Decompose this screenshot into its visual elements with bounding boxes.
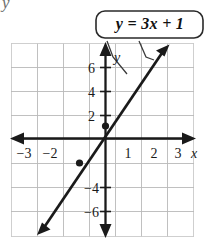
y-tick-label-6: 6 bbox=[88, 61, 95, 76]
x-tick-label--3: −3 bbox=[17, 146, 32, 161]
y-axis bbox=[100, 42, 112, 238]
graph-line-arrow-lower-left bbox=[37, 223, 51, 236]
y-tick-label-4: 4 bbox=[88, 85, 95, 100]
equation-callout-box bbox=[96, 11, 203, 38]
plotted-point-neg1-neg2 bbox=[76, 159, 83, 166]
x-axis-arrow-left bbox=[10, 133, 24, 145]
x-axis-label: x bbox=[190, 146, 198, 161]
y-axis-label: y bbox=[112, 50, 121, 65]
y-tick-label--6: −6 bbox=[84, 205, 99, 220]
x-tick-label-2: 2 bbox=[151, 146, 158, 161]
x-tick-label--2: −2 bbox=[43, 146, 58, 161]
y-tick-label--4: −4 bbox=[84, 181, 99, 196]
x-axis-tick-labels: −3 −2 1 2 3 x bbox=[17, 146, 198, 161]
x-tick-label-3: 3 bbox=[175, 146, 182, 161]
y-axis-arrow-down bbox=[100, 224, 112, 238]
figure-stage: y bbox=[0, 0, 206, 243]
coordinate-graph: −3 −2 1 2 3 x 6 4 2 −4 −6 y bbox=[0, 0, 206, 243]
x-tick-label-1: 1 bbox=[125, 146, 132, 161]
plotted-point-0-1 bbox=[102, 122, 109, 129]
y-tick-label-2: 2 bbox=[88, 109, 95, 124]
